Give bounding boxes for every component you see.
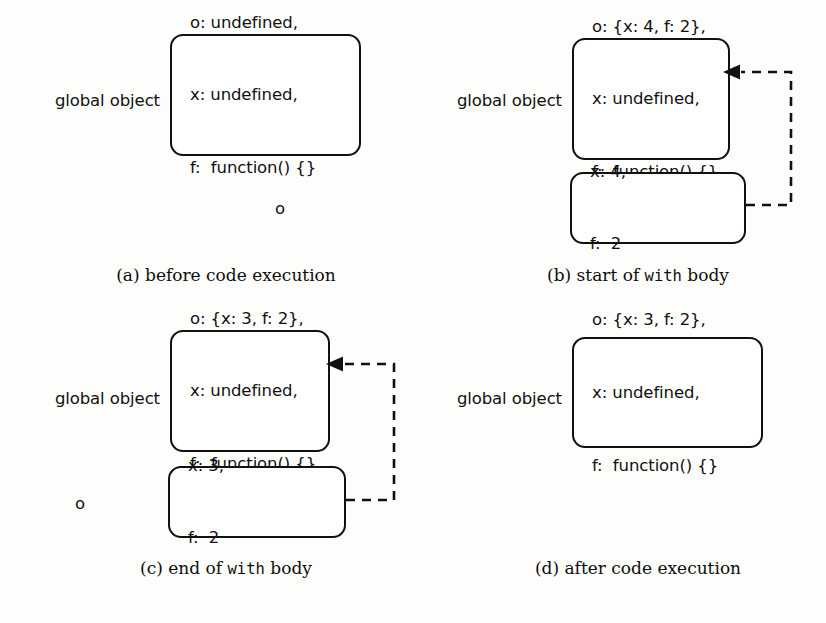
property-row: o: undefined, [190, 10, 316, 34]
panel-c-caption: (c) end of with body [140, 558, 312, 578]
property-row: f: 2 [590, 232, 631, 256]
panel-c-o-object-box: x: 3, f: 2 [168, 466, 346, 538]
property-row: x: undefined, [190, 83, 316, 107]
caption-text-tail: body [265, 558, 312, 578]
property-row: f: function() {} [592, 453, 718, 477]
panel-a-global-object-props: o: undefined, x: undefined, f: function(… [190, 0, 316, 228]
panel-b-o-object-box: x: 4, f: 2 [570, 172, 746, 244]
panel-d-global-object-label: global object [432, 389, 562, 408]
property-row: o: {x: 3, f: 2}, [592, 308, 718, 332]
property-row: x: undefined, [592, 380, 718, 404]
panel-c-object-label: o [0, 494, 160, 513]
property-row: o: {x: 3, f: 2}, [190, 306, 316, 330]
panel-d-global-object-props: o: {x: 3, f: 2}, x: undefined, f: functi… [592, 259, 718, 526]
property-row: x: 4, [590, 160, 631, 184]
panel-a-global-object-box: o: undefined, x: undefined, f: function(… [170, 34, 361, 156]
panel-b-global-object-label: global object [432, 91, 562, 110]
property-row: x: undefined, [592, 87, 718, 111]
property-row: x: 3, [188, 454, 229, 478]
property-row: x: undefined, [190, 379, 316, 403]
caption-text: (d) after code execution [535, 558, 741, 578]
property-row: f: 2 [188, 526, 229, 550]
caption-mono-keyword: with [228, 560, 265, 578]
property-row: o: {x: 4, f: 2}, [592, 14, 718, 38]
panel-d-global-object-box: o: {x: 3, f: 2}, x: undefined, f: functi… [572, 337, 763, 448]
panel-b-object-label: o [0, 199, 560, 218]
panel-a-global-object-label: global object [30, 91, 160, 110]
property-row: f: function() {} [190, 156, 316, 180]
figure-canvas: global object o: undefined, x: undefined… [0, 0, 826, 623]
caption-text: (c) end of [140, 558, 227, 578]
panel-d-caption: (d) after code execution [535, 558, 741, 578]
panel-c-global-object-label: global object [30, 389, 160, 408]
